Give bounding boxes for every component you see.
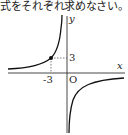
x-axis-label: x <box>117 61 123 71</box>
marked-point <box>49 56 53 60</box>
y-tick-label: 3 <box>69 53 75 63</box>
hyperbola-graph <box>0 0 128 135</box>
y-axis-label: y <box>69 14 75 24</box>
curve-branch-left <box>8 15 62 69</box>
origin-label: O <box>69 75 77 85</box>
x-tick-label: -3 <box>43 75 53 85</box>
curve-branch-right <box>69 78 124 133</box>
